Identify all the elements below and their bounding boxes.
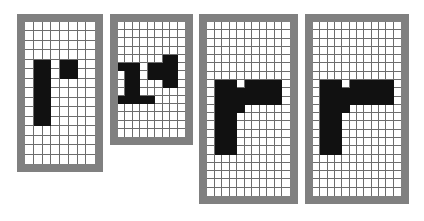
- pixel-cell-off: [148, 121, 155, 129]
- pixel-cell-off: [25, 88, 34, 97]
- pixel-cell-off: [313, 47, 320, 55]
- pixel-cell-off: [275, 105, 283, 113]
- pixel-cell-on: [125, 80, 132, 88]
- pixel-cell-off: [313, 171, 320, 179]
- pixel-cell-on: [267, 88, 275, 96]
- pixel-cell-off: [252, 63, 260, 71]
- pixel-cell-off: [25, 117, 34, 126]
- pixel-cell-off: [394, 163, 401, 171]
- pixel-cell-off: [51, 60, 60, 69]
- pixel-cell-off: [379, 47, 386, 55]
- panel-4: [305, 14, 409, 204]
- pixel-cell-off: [350, 146, 357, 154]
- pixel-cell-off: [252, 55, 260, 63]
- pixel-cell-off: [170, 96, 177, 104]
- pixel-cell-off: [379, 72, 386, 80]
- pixel-cell-off: [313, 113, 320, 121]
- pixel-cell-off: [335, 47, 342, 55]
- pixel-cell-off: [222, 39, 230, 47]
- pixel-cell-off: [282, 63, 290, 71]
- pixel-cell-off: [394, 72, 401, 80]
- pixel-cell-off: [252, 39, 260, 47]
- pixel-cell-off: [320, 63, 327, 71]
- pixel-cell-on: [245, 88, 253, 96]
- panel-2: [110, 14, 193, 145]
- pixel-cell-on: [43, 98, 52, 107]
- pixel-cell-on: [320, 105, 327, 113]
- pixel-cell-on: [230, 80, 238, 88]
- pixel-cell-off: [86, 145, 95, 154]
- pixel-cell-off: [237, 188, 245, 196]
- pixel-cell-on: [163, 71, 170, 79]
- pixel-cell-off: [320, 155, 327, 163]
- pixel-cell-off: [364, 163, 371, 171]
- pixel-cell-off: [328, 22, 335, 30]
- pixel-cell-off: [313, 63, 320, 71]
- pixel-cell-off: [342, 121, 349, 129]
- pixel-cell-on: [43, 88, 52, 97]
- pixel-cell-off: [335, 179, 342, 187]
- pixel-cell-off: [118, 47, 125, 55]
- pixel-cell-off: [386, 55, 393, 63]
- pixel-cell-off: [78, 155, 87, 164]
- pixel-cell-off: [379, 105, 386, 113]
- pixel-cell-off: [215, 72, 223, 80]
- pixel-cell-on: [320, 97, 327, 105]
- pixel-cell-on: [245, 97, 253, 105]
- pixel-cell-off: [245, 130, 253, 138]
- pixel-cell-on: [372, 88, 379, 96]
- pixel-cell-off: [148, 129, 155, 137]
- pixel-cell-off: [133, 112, 140, 120]
- pixel-cell-off: [245, 72, 253, 80]
- pixel-cell-off: [25, 98, 34, 107]
- panel-4-pixel-grid: [313, 22, 401, 196]
- pixel-cell-off: [178, 80, 185, 88]
- pixel-cell-off: [140, 55, 147, 63]
- pixel-cell-on: [335, 130, 342, 138]
- pixel-cell-off: [252, 155, 260, 163]
- pixel-cell-off: [386, 63, 393, 71]
- pixel-cell-off: [148, 80, 155, 88]
- pixel-cell-off: [237, 55, 245, 63]
- pixel-cell-on: [230, 105, 238, 113]
- pixel-cell-off: [260, 171, 268, 179]
- pixel-cell-off: [230, 179, 238, 187]
- pixel-cell-off: [275, 171, 283, 179]
- pixel-cell-on: [222, 130, 230, 138]
- pixel-cell-off: [207, 130, 215, 138]
- pixel-cell-on: [215, 130, 223, 138]
- pixel-cell-on: [350, 80, 357, 88]
- pixel-cell-off: [69, 22, 78, 31]
- pixel-cell-off: [372, 171, 379, 179]
- pixel-cell-off: [320, 188, 327, 196]
- pixel-cell-off: [230, 72, 238, 80]
- pixel-cell-off: [140, 112, 147, 120]
- pixel-cell-off: [86, 126, 95, 135]
- pixel-cell-off: [335, 22, 342, 30]
- pixel-cell-off: [60, 117, 69, 126]
- pixel-cell-off: [245, 63, 253, 71]
- pixel-cell-off: [215, 39, 223, 47]
- pixel-cell-off: [207, 97, 215, 105]
- pixel-cell-off: [25, 107, 34, 116]
- pixel-cell-off: [140, 129, 147, 137]
- pixel-cell-on: [386, 80, 393, 88]
- pixel-cell-off: [60, 79, 69, 88]
- pixel-cell-on: [163, 80, 170, 88]
- pixel-cell-off: [69, 41, 78, 50]
- pixel-cell-off: [379, 30, 386, 38]
- pixel-cell-off: [230, 163, 238, 171]
- pixel-cell-off: [86, 98, 95, 107]
- pixel-cell-off: [267, 146, 275, 154]
- pixel-cell-off: [364, 113, 371, 121]
- pixel-cell-off: [51, 145, 60, 154]
- pixel-cell-off: [386, 138, 393, 146]
- pixel-cell-off: [313, 88, 320, 96]
- pixel-cell-on: [215, 97, 223, 105]
- pixel-cell-on: [320, 88, 327, 96]
- pixel-cell-off: [372, 146, 379, 154]
- pixel-cell-off: [60, 155, 69, 164]
- pixel-cell-off: [252, 163, 260, 171]
- pixel-cell-off: [357, 171, 364, 179]
- pixel-cell-off: [386, 155, 393, 163]
